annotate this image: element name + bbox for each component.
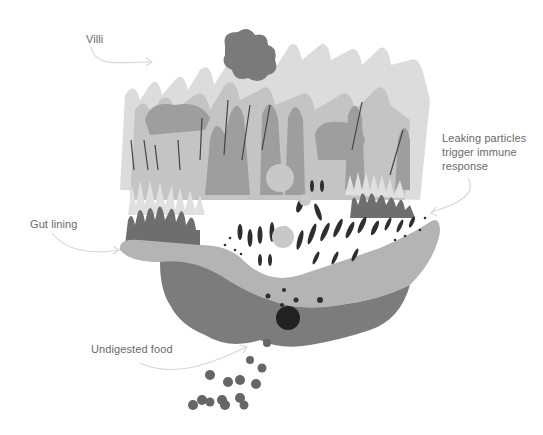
undigested-food-label: Undigested food [91, 342, 173, 356]
leaking-particles-line-3: response [442, 159, 526, 173]
leaking-arrow [432, 178, 470, 212]
gut-lining-arrow [52, 233, 118, 252]
gut-illustration [0, 0, 543, 435]
large-particle [276, 306, 300, 330]
villi-label: Villi [86, 32, 103, 46]
leaking-particles-line-2: trigger immune [442, 145, 526, 159]
gut-lining-label: Gut lining [30, 217, 77, 231]
undigested-food [188, 339, 271, 410]
leaking-particles-label: Leaking particles trigger immune respons… [442, 131, 526, 173]
villi-arrow [91, 47, 150, 63]
leaking-particles-line-1: Leaking particles [442, 131, 526, 145]
